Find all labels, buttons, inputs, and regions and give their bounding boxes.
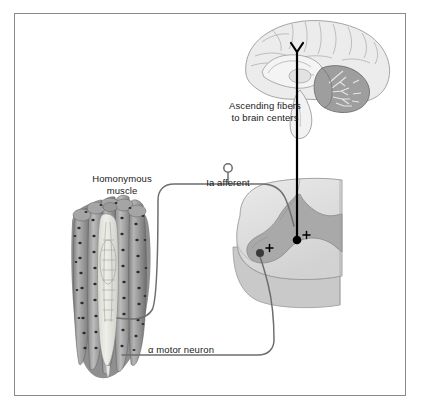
- spinal-cord-illustration: [233, 178, 342, 307]
- alpha-motor-neuron-label: α motor neuron: [148, 344, 268, 356]
- homonymous-muscle-illustration: [71, 195, 150, 378]
- ia-afferent-label: Ia afferent: [183, 177, 273, 189]
- figure-root: Ascending fibers to brain centers Homony…: [0, 0, 423, 420]
- homonymous-muscle-label: Homonymous muscle: [62, 173, 182, 196]
- reflex-arc-diagram: [0, 0, 423, 420]
- ascending-fibers-label: Ascending fibers to brain centers: [205, 100, 325, 123]
